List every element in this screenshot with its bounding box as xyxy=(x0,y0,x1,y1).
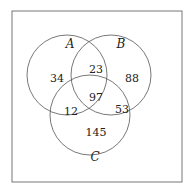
region-c-only: 145 xyxy=(86,126,107,139)
region-a-and-c: 12 xyxy=(64,105,78,118)
set-b-label: B xyxy=(116,37,126,51)
set-b-circle xyxy=(71,35,151,115)
set-c-label: C xyxy=(90,150,99,164)
region-b-only: 88 xyxy=(125,72,139,85)
venn-diagram: A B C 34 88 145 23 12 53 97 xyxy=(0,0,190,190)
region-a-and-b: 23 xyxy=(89,63,103,76)
region-b-and-c: 53 xyxy=(115,103,129,116)
region-a-b-c: 97 xyxy=(89,91,103,104)
region-a-only: 34 xyxy=(50,72,64,85)
set-a-label: A xyxy=(65,37,75,51)
